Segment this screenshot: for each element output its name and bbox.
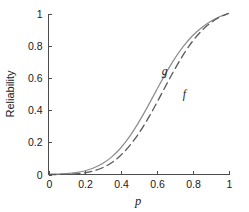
curve-g: [49, 14, 229, 175]
axes-group: [49, 14, 229, 175]
y-tick-label: 1: [37, 8, 43, 20]
x-tick-label: 0.8: [186, 178, 201, 190]
y-tick-label: 0.2: [28, 136, 43, 148]
x-tick-label: 0: [47, 178, 53, 190]
curve-annotations: gf: [162, 65, 188, 100]
data-curves: [49, 14, 229, 175]
y-axis-title: Reliability: [4, 70, 16, 118]
y-axis-tick-labels: 00.20.40.60.81: [28, 8, 43, 181]
y-tick-label: 0.6: [28, 72, 43, 84]
y-tick-label: 0: [37, 169, 43, 181]
x-tick-label: 0.6: [150, 178, 165, 190]
x-tick-label: 0.2: [78, 178, 93, 190]
curve-label-f: f: [183, 88, 188, 101]
curve-f: [49, 14, 229, 175]
y-tick-label: 0.8: [28, 40, 43, 52]
y-axis-ticks: [49, 15, 53, 176]
x-tick-label: 0.4: [114, 178, 129, 190]
x-axis-title: p: [134, 194, 141, 208]
x-tick-label: 1: [227, 178, 233, 190]
reliability-chart: 00.20.40.60.81 00.20.40.60.81 gf p Relia…: [0, 0, 249, 212]
chart-canvas: 00.20.40.60.81 00.20.40.60.81 gf p Relia…: [0, 0, 249, 212]
curve-label-g: g: [162, 65, 168, 78]
x-axis-tick-labels: 00.20.40.60.81: [47, 178, 233, 190]
y-tick-label: 0.4: [28, 104, 43, 116]
